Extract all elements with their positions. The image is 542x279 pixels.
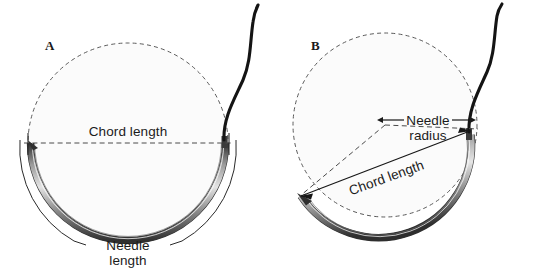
panel-b: B Needle radius Chord length <box>293 4 502 238</box>
chord-length-label-a: Chord length <box>89 124 168 139</box>
needle-length-label-line2-a: length <box>109 253 146 268</box>
suture-thread-a <box>224 5 258 140</box>
panel-letter-a: A <box>45 38 55 53</box>
diagram-canvas: A Chord length Needle length <box>0 0 542 279</box>
needle-radius-label-line1-b: Needle <box>406 113 449 128</box>
needle-length-leader-tail-left-a <box>74 241 86 245</box>
needle-length-leader-tail-right-a <box>170 241 182 245</box>
needle-length-label-line1-a: Needle <box>106 238 149 253</box>
needle-measurement-figure: A Chord length Needle length <box>0 0 542 279</box>
panel-letter-b: B <box>311 38 320 53</box>
needle-radius-label-line2-b: radius <box>409 128 447 143</box>
panel-a: A Chord length Needle length <box>20 5 258 268</box>
